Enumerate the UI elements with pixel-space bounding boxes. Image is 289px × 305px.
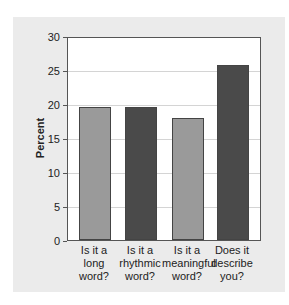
x-tick-label-line: Is it a	[69, 244, 119, 257]
x-tick-label-line: long	[69, 257, 119, 270]
y-tick-mark	[63, 241, 67, 242]
x-tick-label-line: word?	[115, 270, 165, 283]
y-tick-label: 15	[30, 133, 60, 145]
x-tick-label-line: Does it	[207, 244, 257, 257]
y-tick-label: 5	[30, 201, 60, 213]
x-tick-label-line: Is it a	[115, 244, 165, 257]
x-tick-label: Is it ameaningfulword?	[162, 244, 212, 283]
x-tick-label-line: Is it a	[162, 244, 212, 257]
y-tick-label: 10	[30, 167, 60, 179]
x-tick-label-line: word?	[162, 270, 212, 283]
bar	[79, 107, 111, 240]
x-tick-label-line: describe	[207, 257, 257, 270]
x-tick-label: Is it alongword?	[69, 244, 119, 283]
x-tick-label-line: rhythmic	[115, 257, 165, 270]
x-tick-label-line: you?	[207, 270, 257, 283]
plot-area	[67, 37, 261, 241]
y-tick-label: 25	[30, 65, 60, 77]
bar	[172, 118, 204, 240]
x-tick-label: Does itdescribeyou?	[207, 244, 257, 283]
x-tick-label-line: word?	[69, 270, 119, 283]
y-tick-label: 0	[30, 235, 60, 247]
x-tick-label-line: meaningful	[162, 257, 212, 270]
x-tick-label: Is it arhythmicword?	[115, 244, 165, 283]
bar	[125, 107, 157, 240]
bar	[217, 65, 249, 240]
y-tick-label: 30	[30, 31, 60, 43]
y-tick-label: 20	[30, 99, 60, 111]
